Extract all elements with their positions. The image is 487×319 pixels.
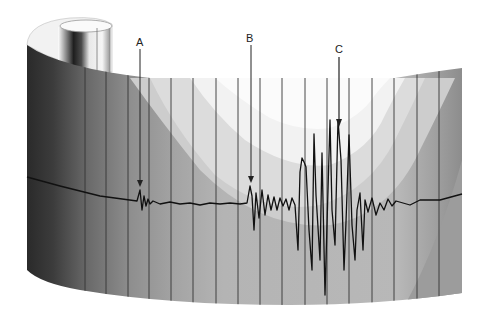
label-c: C — [335, 43, 343, 55]
label-b: B — [246, 32, 253, 44]
seismogram-illustration: A B C — [0, 0, 487, 319]
drum-paper-sheet — [27, 40, 463, 310]
label-a: A — [136, 36, 144, 48]
